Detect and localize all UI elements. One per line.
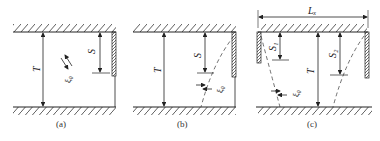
label-xi: ξ₀ <box>215 86 225 93</box>
bottom-wall-hatch <box>13 107 116 115</box>
diagram-canvas: T S ξ₀ (a) T S ξ₀ (b) L <box>0 0 380 141</box>
xi-arrow-down <box>61 58 68 69</box>
caption-b: (b) <box>177 119 188 129</box>
caption-c: (c) <box>307 119 317 129</box>
panel-b: T S ξ₀ (b) <box>133 24 236 129</box>
panel-c: Lₓ S₁ T S₂ ξ₀ (c) <box>256 5 372 129</box>
label-lx: Lₓ <box>307 5 317 16</box>
label-s: S <box>192 53 203 58</box>
dashed-curve <box>201 36 234 107</box>
right-wall-plate <box>365 32 369 78</box>
bottom-wall-hatch <box>258 107 372 115</box>
label-xi: ξ₀ <box>291 90 301 97</box>
label-s2: S₂ <box>327 49 338 58</box>
label-s1: S₁ <box>267 43 278 51</box>
xi-arrow-up <box>65 55 72 66</box>
label-t: T <box>152 66 163 73</box>
wall-plate <box>232 32 236 77</box>
label-s: S <box>86 49 97 54</box>
top-wall-hatch <box>133 24 236 32</box>
top-wall-hatch <box>261 24 367 32</box>
left-wall-plate <box>257 32 261 63</box>
right-dashed-curve <box>333 36 364 107</box>
panel-a: T S ξ₀ (a) <box>13 24 116 129</box>
caption-a: (a) <box>56 119 66 129</box>
wall-plate <box>112 32 116 76</box>
label-t: T <box>305 67 316 74</box>
label-xi: ξ₀ <box>63 76 73 83</box>
label-t: T <box>31 65 42 72</box>
top-wall-hatch <box>13 24 116 32</box>
bottom-wall-hatch <box>133 107 236 115</box>
